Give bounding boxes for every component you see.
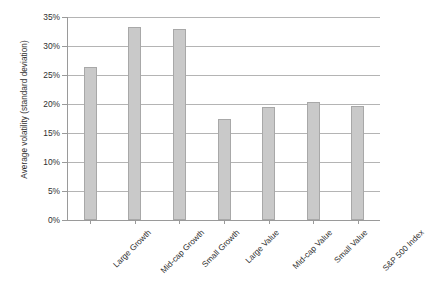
y-axis-tick-label: 35%: [16, 12, 60, 22]
x-axis-tick-label: Mid-cap Value: [291, 228, 334, 271]
y-axis-tick-label: 0%: [16, 215, 60, 225]
y-axis-tick-labels: 0%5%10%15%20%25%30%35%: [12, 17, 60, 221]
x-axis-tick-label: Large Growth: [112, 228, 153, 269]
x-axis-tick-label: S&P 500 Index: [381, 228, 426, 273]
chart-title: Average volatility by style category: [0, 0, 393, 1]
y-axis-tick-label: 10%: [16, 157, 60, 167]
y-axis-tick: [62, 220, 67, 221]
y-axis-tick: [62, 104, 67, 105]
y-axis-tick-label: 25%: [16, 70, 60, 80]
x-axis-tick: [313, 220, 314, 224]
y-axis-tick: [62, 46, 67, 47]
bar-series: [68, 17, 380, 220]
x-axis-tick: [224, 220, 225, 224]
x-axis-tick-label: Small Growth: [201, 228, 242, 269]
bar[interactable]: [262, 107, 275, 220]
y-axis-tick: [62, 75, 67, 76]
y-axis-tick: [62, 162, 67, 163]
bar[interactable]: [84, 67, 97, 220]
y-axis-tick: [62, 133, 67, 134]
bar[interactable]: [128, 27, 141, 220]
x-axis-tick: [358, 220, 359, 224]
x-axis-tick: [179, 220, 180, 224]
plot-area: [68, 17, 380, 220]
x-axis-tick-label: Small Value: [333, 228, 370, 265]
y-axis-tick-label: 20%: [16, 99, 60, 109]
x-axis-tick: [269, 220, 270, 224]
bar[interactable]: [173, 29, 186, 220]
x-axis-tick: [135, 220, 136, 224]
bar[interactable]: [307, 102, 320, 220]
y-axis-tick-label: 30%: [16, 41, 60, 51]
y-axis-tick-label: 15%: [16, 128, 60, 138]
bar[interactable]: [218, 119, 231, 220]
x-axis-tick: [90, 220, 91, 224]
bar[interactable]: [351, 106, 364, 220]
y-axis-tick-label: 5%: [16, 186, 60, 196]
y-axis-tick: [62, 17, 67, 18]
x-axis-tick-label: Mid-cap Growth: [159, 228, 206, 275]
x-axis-tick-label: Large Value: [244, 228, 281, 265]
y-axis-tick: [62, 191, 67, 192]
